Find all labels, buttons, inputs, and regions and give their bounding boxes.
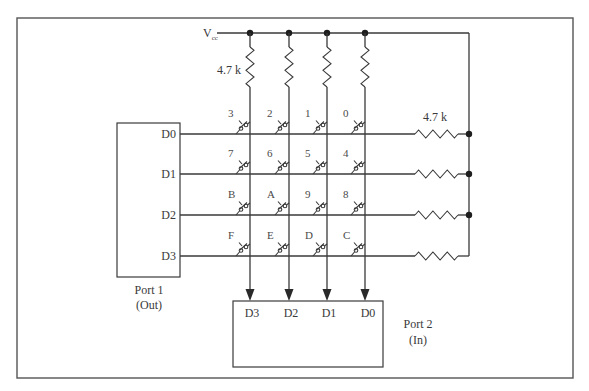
key-label: A [267,188,275,200]
key-label: F [228,229,234,241]
port2-pin-d3: D3 [245,306,260,320]
key-label: 8 [343,188,349,200]
row-resistor [415,252,458,260]
key-switch: 0 [343,107,365,134]
junction-dot [466,171,472,177]
row-line [180,170,472,178]
key-label: 9 [305,188,311,200]
pullup-resistor [285,47,293,87]
key-label: D [305,229,313,241]
junction-dot [466,212,472,218]
port1-direction: (Out) [136,298,162,312]
key-switch: B [228,188,250,215]
arrow-down-icon [361,289,370,301]
key-switch: C [343,229,365,256]
port1-pin-d2: D2 [161,208,176,222]
arrow-down-icon [285,289,294,301]
row-resistor [415,211,458,219]
key-switch: 1 [305,107,327,134]
diagram-frame [17,18,573,378]
key-switch: 3 [228,107,250,134]
key-switch: D [305,229,327,256]
port1-pin-d1: D1 [161,167,176,181]
pullup-resistor-label: 4.7 k [217,63,241,77]
port2-pin-d0: D0 [361,306,376,320]
column-lines [246,30,370,301]
key-label: 1 [305,107,311,119]
port2-pin-d2: D2 [284,306,299,320]
junction-dot [466,131,472,137]
key-switch: 6 [267,147,289,174]
row-resistor [415,130,458,138]
key-switch: 8 [343,188,365,215]
key-label: 7 [228,147,234,159]
key-label: C [343,229,350,241]
key-label: E [267,229,274,241]
key-label: 0 [343,107,349,119]
key-switches: 32107654BA98FEDC [228,107,365,256]
port2-name: Port 2 [403,317,432,331]
key-switch: 9 [305,188,327,215]
keypad-schematic: Vcc 4.7 k 32107654BA98FEDC 4.7 k D0 D1 D… [0,0,589,391]
port1-pin-d3: D3 [161,249,176,263]
pullup-resistor [246,47,254,87]
key-switch: E [267,229,289,256]
key-label: 3 [228,107,234,119]
arrow-down-icon [246,289,255,301]
row-line [180,252,469,260]
key-switch: A [267,188,289,215]
key-switch: 5 [305,147,327,174]
key-switch: 2 [267,107,289,134]
key-switch: 4 [343,147,365,174]
key-label: B [228,188,235,200]
key-switch: 7 [228,147,250,174]
row-line [180,130,472,138]
pullup-resistor [361,47,369,87]
pullup-resistor [323,47,331,87]
row-resistor [415,170,458,178]
row-lines [180,130,472,260]
port1-name: Port 1 [134,283,163,297]
row-resistor-label: 4.7 k [423,110,447,124]
port2-pin-d1: D1 [322,306,337,320]
key-label: 2 [267,107,273,119]
vcc-label: Vcc [203,26,218,42]
port2-direction: (In) [409,333,427,347]
row-line [180,211,472,219]
key-switch: F [228,229,250,256]
key-label: 5 [305,147,311,159]
arrow-down-icon [323,289,332,301]
key-label: 6 [267,147,273,159]
key-label: 4 [343,147,349,159]
port1-pin-d0: D0 [161,127,176,141]
